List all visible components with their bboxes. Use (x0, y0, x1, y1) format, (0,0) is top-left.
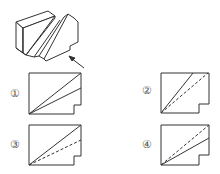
option-2-label[interactable]: ② (140, 85, 154, 99)
option-3-view (29, 125, 81, 165)
option-4-view (161, 125, 209, 165)
option-1-label[interactable]: ① (8, 88, 22, 102)
diagram-canvas (0, 0, 220, 174)
option-1-view (29, 73, 81, 114)
option-2-view (161, 73, 209, 113)
option-4-label[interactable]: ④ (140, 139, 154, 153)
isometric-block (16, 11, 78, 61)
option-3-label[interactable]: ③ (8, 139, 22, 153)
view-direction-arrow (69, 56, 84, 68)
